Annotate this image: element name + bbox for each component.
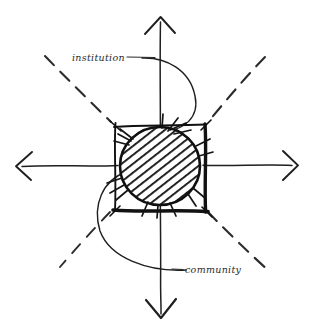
institution-leader-line [127,57,155,58]
spike-top-d [162,114,163,128]
horizontal-axis-line-right [203,165,292,166]
community-leader-line [172,269,183,270]
square-edge-left [115,123,116,211]
hand-drawn-diagram: institution community [0,0,311,332]
horizontal-axis-line-left [22,165,118,166]
diagram-canvas: institution community [0,0,311,332]
square-edge-bottom [113,210,208,212]
institution-label: institution [72,52,125,63]
spike-bottom-b [157,205,158,218]
community-label: community [185,264,242,275]
